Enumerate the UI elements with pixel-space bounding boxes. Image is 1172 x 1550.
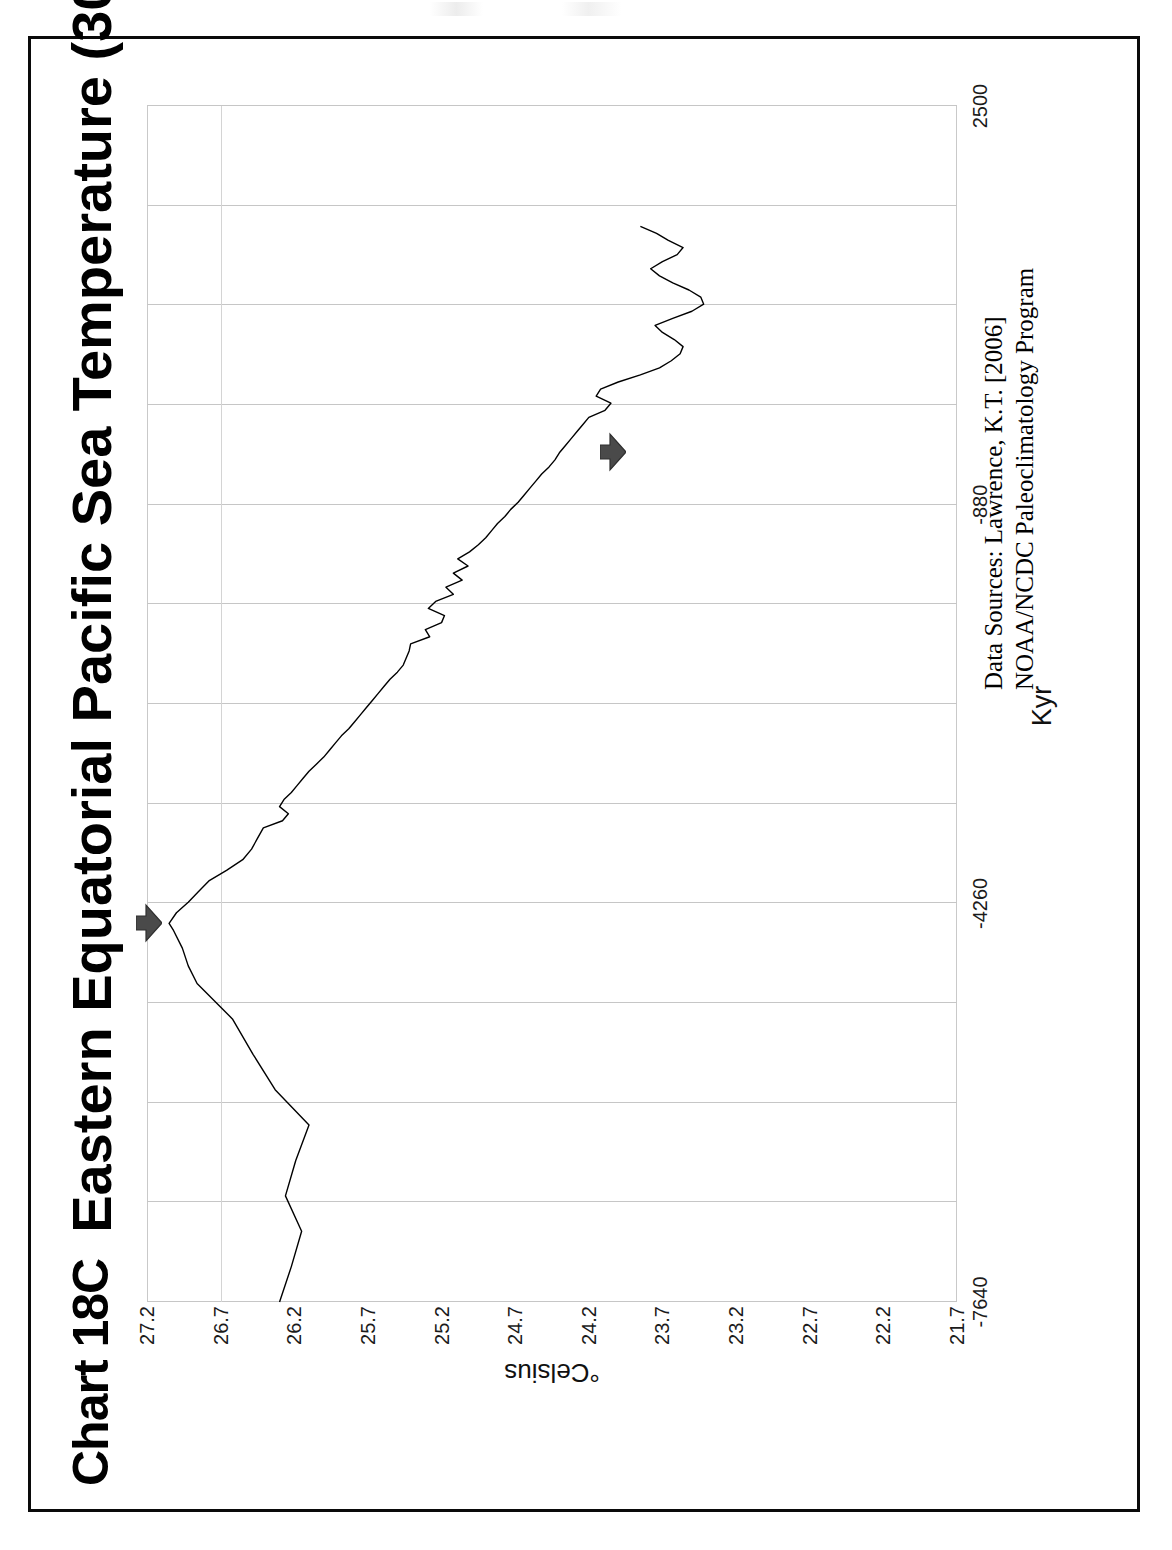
y-tick-label: 23.7 [651,1306,674,1446]
y-tick-label: 26.2 [283,1306,306,1446]
y-axis-label: °Celsius [504,1357,600,1388]
chart-header: Chart 18C Eastern Equatorial Pacific Sea… [45,66,137,1486]
y-tick-label: 22.7 [798,1306,821,1446]
x-tick-label: -7640 [969,1276,992,1327]
plot-area: 21.722.222.723.223.724.224.725.225.726.2… [147,106,957,1302]
x-tick-label: -4260 [969,878,992,929]
y-tick-label: 25.7 [356,1306,379,1446]
y-tick-label: 21.7 [946,1306,969,1446]
source-line-1: Data Sources: Lawrence, K.T. [2006] [979,70,1010,690]
chart-id-label: Chart 18C [62,1259,120,1486]
y-tick-label: 22.2 [872,1306,895,1446]
page-title: Eastern Equatorial Pacific Sea Temperatu… [59,0,124,1233]
y-tick-label: 27.2 [136,1306,159,1446]
series-polyline [169,226,704,1302]
scan-artifact [430,2,760,16]
source-line-2: NOAA/NCDC Paleoclimatology Program [1010,70,1041,690]
x-axis-label: Kyr [1027,686,1058,727]
annotation-arrow-icon [136,900,162,946]
page-frame: Chart 18C Eastern Equatorial Pacific Sea… [28,36,1140,1512]
y-tick-label: 26.7 [209,1306,232,1446]
y-tick-label: 23.2 [725,1306,748,1446]
annotation-arrow-icon [600,429,626,475]
data-source-note: Data Sources: Lawrence, K.T. [2006] NOAA… [979,70,1040,690]
series-line [147,106,957,1302]
rotated-chart-container: Chart 18C Eastern Equatorial Pacific Sea… [39,54,1129,1494]
y-tick-label: 25.2 [430,1306,453,1446]
